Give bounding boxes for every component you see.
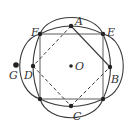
label-f: F xyxy=(30,26,39,39)
point-bottom-right xyxy=(101,97,105,101)
label-d: D xyxy=(23,69,33,82)
point-d xyxy=(31,64,35,68)
label-g: G xyxy=(9,69,18,82)
point-c xyxy=(69,104,73,108)
point-o xyxy=(69,64,73,68)
label-c: C xyxy=(73,110,82,123)
geometry-figure: A B C D E F G O xyxy=(0,0,130,130)
label-b: B xyxy=(110,73,119,86)
point-a xyxy=(69,24,73,28)
label-o: O xyxy=(75,60,84,73)
segment-ad xyxy=(33,26,71,66)
label-a: A xyxy=(74,15,83,28)
label-e: E xyxy=(106,26,115,39)
point-e xyxy=(101,32,105,36)
point-g xyxy=(13,62,19,68)
point-b xyxy=(108,65,112,69)
point-bottom-left xyxy=(38,97,42,101)
